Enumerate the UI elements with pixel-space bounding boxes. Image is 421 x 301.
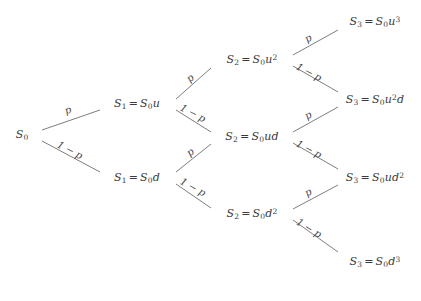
tree-edge-up (293, 107, 338, 132)
tree-node-n_uuu: S3=S0u3 (349, 15, 400, 29)
tree-node-n_udd: S3=S0ud2 (346, 171, 404, 185)
tree-node-n_ud: S2=S0ud (225, 130, 278, 144)
tree-node-n_uud: S3=S0u2d (346, 93, 404, 107)
tree-node-n_uu: S2=S0u2 (226, 53, 277, 67)
tree-edge-up (293, 30, 338, 55)
tree-node-n_d: S1=S0d (114, 171, 160, 185)
tree-node-n_dd: S2=S0d2 (226, 207, 277, 221)
tree-edge-up (176, 144, 211, 172)
tree-edge-up (293, 185, 338, 209)
tree-node-n_u: S1=S0u (114, 97, 160, 111)
tree-edge-up (176, 68, 211, 99)
binomial-tree-diagram: S0S1=S0uS1=S0dS2=S0u2S2=S0udS2=S0d2S3=S0… (0, 0, 421, 301)
tree-node-n_ddd: S3=S0d3 (349, 255, 400, 269)
tree-node-n0: S0 (16, 128, 29, 142)
